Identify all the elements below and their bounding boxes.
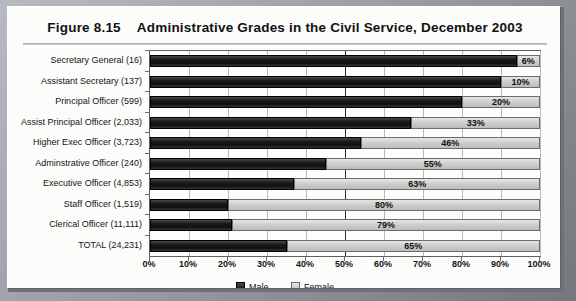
bar-segment-male bbox=[150, 55, 517, 67]
figure-number: Figure 8.15 bbox=[47, 20, 120, 35]
bar-row: 46% bbox=[150, 133, 540, 154]
category-label: Executive Officer (4,853) bbox=[43, 173, 142, 194]
value-tick-label: 30% bbox=[246, 259, 286, 269]
bar-row: 55% bbox=[150, 154, 540, 175]
legend-swatch-male-icon bbox=[236, 282, 245, 289]
figure-frame: Figure 8.15Administrative Grades in the … bbox=[0, 0, 576, 301]
bar-row: 79% bbox=[150, 215, 540, 236]
bar-row: 6% bbox=[150, 51, 540, 72]
bar-segment-male bbox=[150, 158, 326, 170]
category-label: Adminstrative Officer (240) bbox=[35, 153, 142, 174]
plot-area: 6%10%20%33%46%55%63%80%79%65% bbox=[149, 50, 541, 257]
figure-title-text: Administrative Grades in the Civil Servi… bbox=[137, 20, 523, 35]
bar-value-label: 63% bbox=[294, 178, 540, 190]
legend-label-male: Male bbox=[249, 282, 269, 289]
bar-value-label: 10% bbox=[501, 76, 540, 88]
gridline-100 bbox=[540, 51, 541, 256]
bar-segment-male bbox=[150, 178, 294, 190]
value-tick-label: 90% bbox=[480, 259, 520, 269]
legend-label-female: Female bbox=[304, 282, 334, 289]
bar-segment-male bbox=[150, 240, 287, 252]
legend-item-male: Male bbox=[236, 276, 269, 289]
bar-value-label: 55% bbox=[326, 158, 541, 170]
figure-title: Figure 8.15Administrative Grades in the … bbox=[8, 18, 561, 36]
bar-value-label: 46% bbox=[361, 137, 540, 149]
bar-value-label: 80% bbox=[228, 199, 540, 211]
category-label: Higher Exec Officer (3,723) bbox=[33, 132, 142, 153]
bar-row: 63% bbox=[150, 174, 540, 195]
legend-item-female: Female bbox=[291, 276, 334, 289]
bar-segment-male bbox=[150, 199, 228, 211]
bar-value-label: 65% bbox=[287, 240, 541, 252]
chart-legend: Male Female bbox=[8, 275, 561, 289]
bar-row: 10% bbox=[150, 72, 540, 93]
bar-value-label: 20% bbox=[462, 96, 540, 108]
bar-value-label: 33% bbox=[411, 117, 540, 129]
category-label: TOTAL (24,231) bbox=[78, 235, 142, 256]
category-label: Clerical Officer (11,111) bbox=[49, 214, 142, 235]
value-tick-label: 40% bbox=[285, 259, 325, 269]
bar-segment-male bbox=[150, 76, 501, 88]
bar-row: 33% bbox=[150, 113, 540, 134]
category-label: Assistant Secretary (137) bbox=[41, 71, 142, 92]
bar-segment-male bbox=[150, 137, 361, 149]
legend-swatch-female-icon bbox=[291, 282, 300, 289]
bar-row: 20% bbox=[150, 92, 540, 113]
category-label: Principal Officer (599) bbox=[55, 91, 142, 112]
value-tick-label: 20% bbox=[207, 259, 247, 269]
category-label: Secretary General (16) bbox=[50, 50, 142, 71]
category-label: Assist Principal Officer (2,033) bbox=[21, 112, 142, 133]
bar-row: 80% bbox=[150, 195, 540, 216]
bar-value-label: 6% bbox=[517, 55, 540, 67]
value-tick-label: 50% bbox=[324, 259, 364, 269]
value-tick-label: 80% bbox=[441, 259, 481, 269]
value-tick-label: 60% bbox=[363, 259, 403, 269]
category-label: Staff Officer (1,519) bbox=[64, 194, 142, 215]
bar-value-label: 79% bbox=[232, 219, 540, 231]
value-tick-label: 100% bbox=[519, 259, 559, 269]
bar-segment-male bbox=[150, 117, 411, 129]
value-tick-label: 70% bbox=[402, 259, 442, 269]
bar-segment-male bbox=[150, 219, 232, 231]
value-tick-label: 0% bbox=[129, 259, 169, 269]
title-divider bbox=[23, 43, 547, 45]
value-tick-label: 10% bbox=[168, 259, 208, 269]
bar-segment-male bbox=[150, 96, 462, 108]
bar-row: 65% bbox=[150, 236, 540, 257]
figure-panel: Figure 8.15Administrative Grades in the … bbox=[7, 6, 561, 289]
